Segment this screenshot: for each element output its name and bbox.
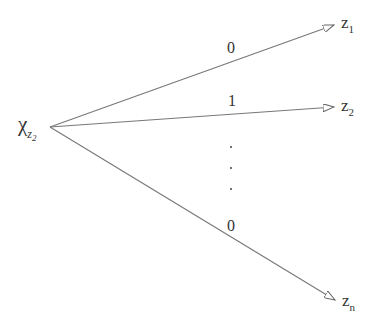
target-node-z2: z2	[341, 97, 354, 114]
edge-to-z1	[50, 25, 334, 127]
edge-to-z2	[50, 107, 334, 127]
target-node-z1: z1	[341, 14, 354, 31]
target-node-zn: zn	[342, 292, 355, 309]
ellipsis-dot	[230, 188, 232, 190]
edge-label-z1: 0	[227, 40, 235, 56]
edge-label-zn: 0	[227, 218, 235, 234]
ellipsis-dot	[230, 146, 232, 148]
target-node-subscript: 1	[349, 23, 355, 35]
ellipsis-dot	[230, 167, 232, 169]
source-node-subscript: z2	[27, 127, 36, 141]
target-node-subscript: n	[350, 301, 356, 313]
target-node-subscript: 2	[349, 106, 355, 118]
source-node-subsubscript: 2	[32, 133, 37, 143]
source-node-label: χz2	[18, 114, 37, 135]
target-node-symbol: z	[342, 291, 350, 310]
fanout-diagram	[0, 0, 380, 333]
edge-label-z2: 1	[228, 93, 236, 109]
edge-to-zn	[50, 127, 335, 300]
source-node-symbol: χ	[18, 112, 27, 136]
target-node-symbol: z	[341, 96, 349, 115]
target-node-symbol: z	[341, 13, 349, 32]
